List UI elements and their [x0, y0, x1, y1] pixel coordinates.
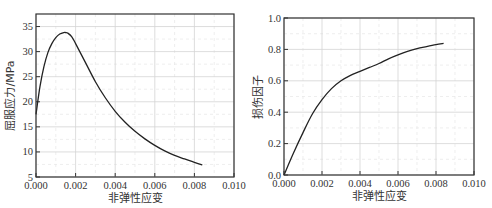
figure: 0.0000.0020.0040.0060.0080.0105101520253…	[0, 0, 492, 208]
x-tick-label: 0.004	[348, 178, 372, 189]
x-axis-label: 非弹性应变	[352, 189, 407, 203]
x-tick-label: 0.010	[462, 178, 486, 189]
x-axis-label: 非弹性应变	[108, 191, 163, 205]
x-tick-label: 0.008	[183, 180, 207, 191]
y-tick-label: 0.6	[268, 75, 281, 86]
y-axis-label: 损伤因子	[251, 75, 265, 119]
y-axis-label: 屈服应力/MPa	[3, 60, 17, 130]
y-tick-label: 1.0	[268, 13, 281, 24]
y-tick-label: 0.2	[268, 138, 281, 149]
data-curve	[36, 32, 202, 165]
x-tick-label: 0.008	[424, 178, 448, 189]
y-tick-label: 10	[23, 146, 34, 157]
x-tick-label: 0.010	[222, 180, 246, 191]
y-tick-label: 0.4	[268, 107, 282, 118]
damage-factor-chart: 0.0000.0020.0040.0060.0080.0100.00.20.40…	[251, 13, 486, 204]
y-tick-label: 15	[23, 121, 34, 132]
x-tick-label: 0.006	[386, 178, 410, 189]
data-curve	[284, 43, 444, 175]
x-tick-label: 0.004	[103, 180, 127, 191]
x-tick-label: 0.002	[310, 178, 334, 189]
y-tick-label: 5	[28, 172, 33, 183]
yield-stress-chart: 0.0000.0020.0040.0060.0080.0105101520253…	[3, 14, 246, 205]
y-tick-label: 25	[23, 71, 34, 82]
y-tick-label: 30	[23, 46, 34, 57]
y-tick-label: 20	[23, 96, 34, 107]
y-tick-label: 35	[23, 21, 34, 32]
x-tick-label: 0.006	[143, 180, 167, 191]
y-tick-label: 0.0	[268, 170, 281, 181]
x-tick-label: 0.002	[64, 180, 88, 191]
y-tick-label: 0.8	[268, 44, 281, 55]
